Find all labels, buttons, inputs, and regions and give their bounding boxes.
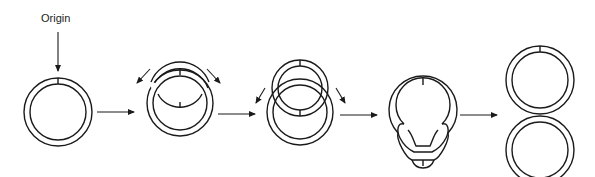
fork-arrow-left-2 bbox=[137, 69, 150, 83]
stage-5-daughter-circles bbox=[506, 46, 574, 177]
fork-arrow-left-3 bbox=[256, 88, 265, 103]
stage-2-bubble bbox=[147, 62, 213, 136]
fork-arrow-right-3 bbox=[336, 88, 345, 103]
replication-diagram bbox=[0, 0, 595, 177]
stage-4-termination bbox=[389, 76, 457, 168]
stage-1-circle bbox=[24, 78, 92, 146]
stage-3-bubble bbox=[267, 60, 333, 145]
